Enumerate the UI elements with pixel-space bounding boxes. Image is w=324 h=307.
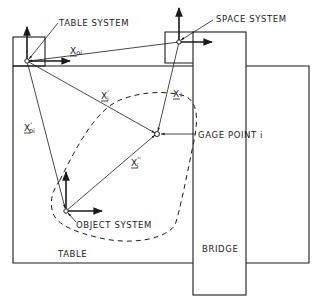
- object-system-origin: [64, 209, 68, 213]
- label-x-i: Xi: [173, 89, 182, 99]
- svg-text:Xoi: Xoi: [70, 46, 82, 57]
- vector-x-oi: [29, 42, 179, 61]
- vector-x-i: [158, 42, 179, 131]
- coordinate-systems-diagram: TABLE SYSTEM SPACE SYSTEM GAGE POINT i O…: [0, 0, 324, 307]
- space-system-origin: [177, 40, 181, 44]
- svg-text:Xi: Xi: [173, 89, 182, 99]
- vector-x-i-double-prime: [66, 135, 155, 211]
- object-system-axes: [66, 172, 102, 211]
- table-label: TABLE: [57, 249, 87, 259]
- object-system-label: OBJECT SYSTEM: [76, 220, 152, 230]
- table-system-axes: [27, 27, 70, 61]
- gage-point-label: GAGE POINT i: [198, 130, 263, 140]
- vector-x-i-prime: [27, 61, 155, 133]
- space-system-label: SPACE SYSTEM: [216, 14, 287, 24]
- table-system-origin: [25, 59, 29, 63]
- object-system-leader: [68, 213, 76, 222]
- label-x-oi-prime: X'oi: [24, 121, 35, 135]
- bridge-label: BRIDGE: [202, 244, 238, 254]
- gage-point: [155, 132, 160, 137]
- table-outline: [13, 66, 309, 263]
- label-x-oi: Xoi: [70, 46, 82, 57]
- label-x-i-prime: X'i: [101, 89, 109, 103]
- table-system-leader: [29, 23, 58, 59]
- bridge-rect: [193, 32, 246, 295]
- label-x-i-double-prime: X''i: [131, 156, 141, 170]
- table-system-label: TABLE SYSTEM: [58, 18, 129, 28]
